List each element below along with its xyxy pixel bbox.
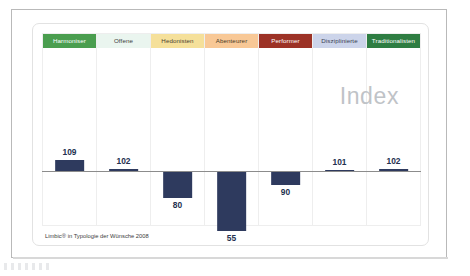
chart-panel: Harmoniser109Offene102Hedonisten80Abente… [32,23,429,246]
bar-abenteurer [217,172,247,231]
baseline-index-100 [42,171,421,172]
bar-performer [271,172,301,185]
bar-value-label-traditionalisten: 102 [387,156,401,166]
bar-value-label-hedonisten: 80 [173,200,182,210]
bar-hedonisten [163,172,193,198]
category-column-harmoniser[interactable]: Harmoniser109 [42,33,97,226]
category-column-abenteurer[interactable]: Abenteurer55 [205,33,259,226]
category-header-traditionalisten[interactable]: Traditionalisten [367,34,420,48]
category-column-traditionalisten[interactable]: Traditionalisten102 [367,33,421,226]
scan-artifact [4,263,52,270]
category-column-disziplinierte[interactable]: Disziplinierte101 [313,33,367,226]
bar-value-label-disziplinierte: 101 [333,157,347,167]
bar-value-label-harmoniser: 109 [63,147,77,157]
plot-area: Harmoniser109Offene102Hedonisten80Abente… [42,33,421,226]
category-column-performer[interactable]: Performer90 [259,33,313,226]
category-header-hedonisten[interactable]: Hedonisten [151,34,204,48]
category-header-harmoniser[interactable]: Harmoniser [43,34,96,48]
index-watermark: Index [340,83,399,110]
chart-source-note: Limbic® in Typologie der Wünsche 2008 [45,233,149,239]
category-header-offene[interactable]: Offene [97,34,150,48]
bar-value-label-offene: 102 [117,156,131,166]
category-column-offene[interactable]: Offene102 [97,33,151,226]
category-header-disziplinierte[interactable]: Disziplinierte [313,34,366,48]
category-columns: Harmoniser109Offene102Hedonisten80Abente… [42,33,421,226]
category-header-abenteurer[interactable]: Abenteurer [205,34,258,48]
category-column-hedonisten[interactable]: Hedonisten80 [151,33,205,226]
category-header-performer[interactable]: Performer [259,34,312,48]
bar-value-label-abenteurer: 55 [227,233,236,243]
slide-frame: Harmoniser109Offene102Hedonisten80Abente… [11,9,447,258]
bar-value-label-performer: 90 [281,187,290,197]
